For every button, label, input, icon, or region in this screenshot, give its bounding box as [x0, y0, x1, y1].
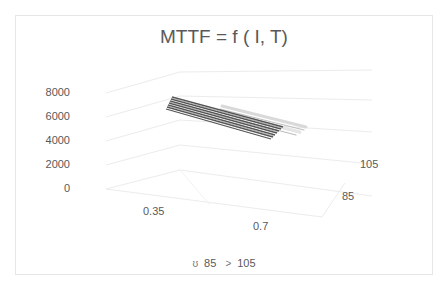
y-tick: 2000: [10, 158, 70, 170]
depth-tick: 85: [342, 190, 354, 202]
value-axis: 8000 6000 4000 2000 0: [10, 0, 70, 290]
x-tick: 0.35: [143, 205, 164, 217]
y-tick: 6000: [10, 110, 70, 122]
legend-label-105: 105: [237, 257, 255, 269]
gridlines: [106, 70, 372, 217]
legend-marker-105-icon: >: [225, 258, 231, 269]
legend-marker-85-icon: ʊ: [192, 258, 198, 269]
y-tick: 4000: [10, 134, 70, 146]
x-tick: 0.7: [253, 220, 268, 232]
y-tick: 8000: [10, 86, 70, 98]
y-tick: 0: [10, 182, 70, 194]
depth-tick: 105: [360, 158, 378, 170]
legend-label-85: 85: [204, 257, 216, 269]
legend: ʊ85 >105: [0, 257, 448, 269]
